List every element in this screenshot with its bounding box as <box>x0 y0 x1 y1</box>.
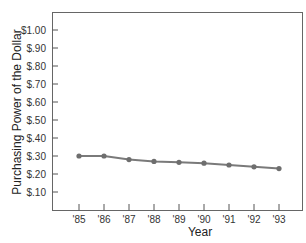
y-tick-label: $.80 <box>27 61 47 72</box>
x-tick-label: '92 <box>247 214 260 225</box>
x-tick-label: '85 <box>72 214 85 225</box>
data-point <box>101 153 106 158</box>
y-tick-label: $.30 <box>27 151 47 162</box>
x-axis: '85'86'87'88'89'90'91'92'93 <box>72 204 285 225</box>
data-point <box>251 164 256 169</box>
data-point <box>276 166 281 171</box>
y-tick-label: $1.00 <box>21 25 46 36</box>
y-tick-label: $.40 <box>27 133 47 144</box>
data-point <box>176 160 181 165</box>
y-tick-label: $.90 <box>27 43 47 54</box>
x-tick-label: '88 <box>147 214 160 225</box>
x-axis-title: Year <box>188 225 212 239</box>
y-axis-title: Purchasing Power of the Dollar <box>10 29 24 194</box>
x-tick-label: '93 <box>272 214 285 225</box>
y-tick-label: $.60 <box>27 97 47 108</box>
data-point <box>226 162 231 167</box>
y-tick-label: $.50 <box>27 115 47 126</box>
x-tick-label: '90 <box>197 214 210 225</box>
y-tick-label: $.20 <box>27 169 47 180</box>
data-point <box>126 157 131 162</box>
data-point <box>76 153 81 158</box>
x-tick-label: '86 <box>97 214 110 225</box>
data-series <box>76 153 281 171</box>
x-tick-label: '89 <box>172 214 185 225</box>
data-point <box>151 159 156 164</box>
x-tick-label: '91 <box>222 214 235 225</box>
x-tick-label: '87 <box>122 214 135 225</box>
data-point <box>201 161 206 166</box>
y-tick-label: $.10 <box>27 187 47 198</box>
y-tick-label: $.70 <box>27 79 47 90</box>
line-chart: $1.00$.90$.80$.70$.60$.50$.40$.30$.20$.1… <box>0 0 306 243</box>
plot-frame <box>53 13 303 211</box>
